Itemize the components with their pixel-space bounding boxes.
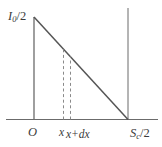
x-axis-max-label: Sc/2 — [130, 127, 150, 140]
origin-label: O — [28, 126, 37, 139]
intensity-profile-figure: I0/2 O x x+dx Sc/2 — [0, 0, 162, 147]
x-tick-upper-label: x+dx — [66, 129, 90, 141]
y-axis-max-label: I0/2 — [8, 10, 26, 23]
y-axis-max-suffix: /2 — [16, 9, 26, 23]
x-axis-max-suffix: /2 — [140, 126, 150, 140]
intensity-decay-line — [34, 17, 128, 120]
x-tick-lower-label: x — [59, 127, 64, 139]
